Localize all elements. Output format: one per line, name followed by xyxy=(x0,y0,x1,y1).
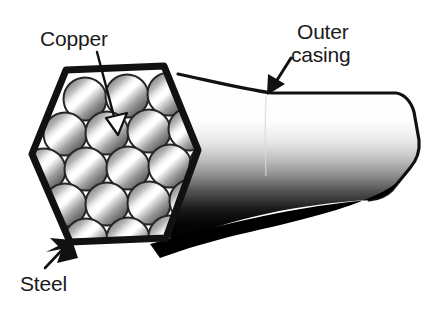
copper-label: Copper xyxy=(40,27,108,50)
cable-cutaway-figure: Copper Outer casing Steel xyxy=(0,0,439,313)
cable-diagram-svg: Copper Outer casing Steel xyxy=(0,0,439,313)
outer-casing-label-line1: Outer xyxy=(297,20,349,43)
steel-label: Steel xyxy=(20,272,67,295)
casing-surface-seam xyxy=(265,96,266,176)
outer-casing-label-line2: casing xyxy=(291,43,351,66)
outer-casing-leader-arrow xyxy=(267,58,291,95)
